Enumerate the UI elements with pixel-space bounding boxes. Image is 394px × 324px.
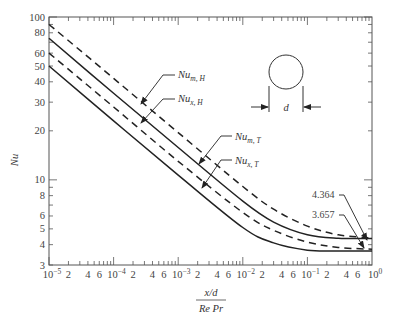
tube-circle-icon <box>269 55 303 89</box>
y-tick-label: 40 <box>35 76 46 87</box>
svg-text:Num, T: Num, T <box>234 131 261 145</box>
y-tick-label: 20 <box>35 125 46 136</box>
x-tick-label: 2 <box>66 269 71 280</box>
x-tick-label: 4 <box>344 269 350 280</box>
y-tick-label: 5 <box>40 223 45 234</box>
x-tick-label: 2 <box>260 269 265 280</box>
y-tick-label: 50 <box>35 61 46 72</box>
x-tick-label: 4 <box>279 269 285 280</box>
x-tick-label: 6 <box>355 269 360 280</box>
x-tick-label: 6 <box>97 269 102 280</box>
nusselt-number-chart: 10−524610−424610−324610−224610−1246100 3… <box>0 0 394 324</box>
x-axis-label-numerator: x/d <box>204 287 219 298</box>
x-tick-label: 2 <box>130 269 135 280</box>
y-tick-label: 80 <box>35 27 46 38</box>
x-axis-label-denominator: Re Pr <box>198 303 224 314</box>
svg-text:4.364: 4.364 <box>312 189 335 200</box>
y-tick-label: 4 <box>40 239 46 250</box>
annotation-3-657: 3.657 <box>312 209 364 248</box>
y-tick-label: 8 <box>40 190 45 201</box>
y-tick-label: 30 <box>35 97 46 108</box>
x-axis-ticks: 10−524610−424610−324610−224610−1246100 <box>43 17 383 280</box>
x-tick-label: 4 <box>85 269 91 280</box>
x-tick-label: 2 <box>324 269 329 280</box>
x-tick-label: 10−2 <box>237 267 256 280</box>
y-tick-label: 3 <box>40 260 45 271</box>
svg-text:3.657: 3.657 <box>312 209 335 220</box>
x-tick-label: 2 <box>195 269 200 280</box>
label-nu-x-h: Nux, H <box>141 93 203 123</box>
tube-cross-section-inset: d <box>251 55 321 113</box>
x-tick-label: 6 <box>161 269 166 280</box>
x-tick-label: 10−4 <box>107 267 126 280</box>
diameter-label: d <box>283 102 289 113</box>
x-tick-label: 100 <box>368 267 383 280</box>
y-axis-label: Nu <box>9 154 20 167</box>
x-tick-label: 10−1 <box>301 267 320 280</box>
x-tick-label: 10−3 <box>172 267 191 280</box>
y-tick-label: 100 <box>29 12 45 23</box>
x-tick-label: 6 <box>290 269 295 280</box>
svg-text:Num, H: Num, H <box>177 69 205 83</box>
x-tick-label: 6 <box>226 269 231 280</box>
plot-frame <box>49 17 372 265</box>
x-tick-label: 10−5 <box>43 267 62 280</box>
x-tick-label: 4 <box>150 269 156 280</box>
y-tick-label: 60 <box>35 48 46 59</box>
curve-nu-m-h <box>49 25 372 238</box>
svg-text:Nux, H: Nux, H <box>177 93 203 107</box>
y-tick-label: 6 <box>40 210 45 221</box>
x-tick-label: 4 <box>214 269 220 280</box>
y-tick-label: 10 <box>35 174 46 185</box>
svg-text:Nux, T: Nux, T <box>234 155 259 169</box>
